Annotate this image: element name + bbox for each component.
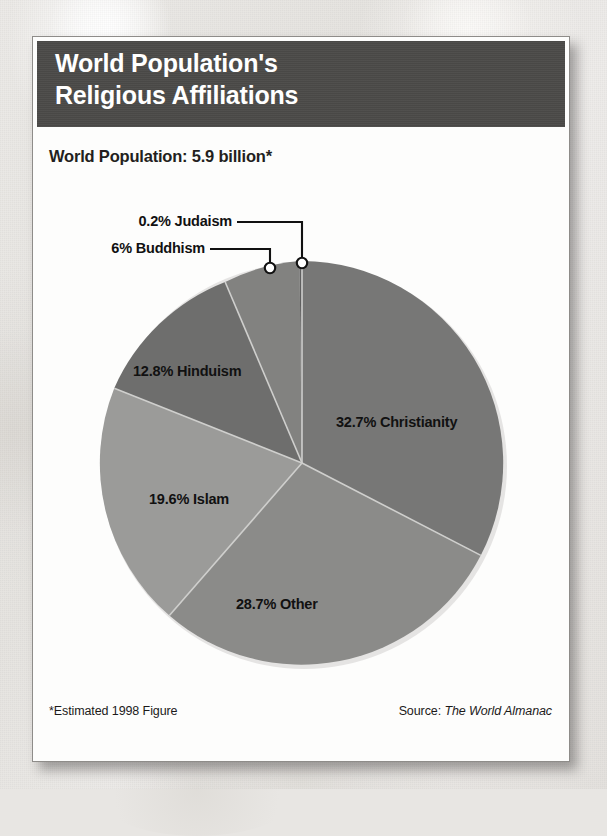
pie-label-buddhism: 6% Buddhism: [63, 240, 205, 256]
pie-label-judaism: 0.2% Judaism: [90, 213, 232, 229]
source-label: Source:: [399, 704, 441, 718]
infographic-card: World Population's Religious Affiliation…: [32, 36, 570, 762]
callout-marker-judaism: [297, 258, 307, 268]
callout-marker-buddhism: [265, 263, 275, 273]
footnote: *Estimated 1998 Figure: [49, 704, 177, 718]
pie-chart-svg: [32, 36, 570, 762]
source-credit: Source: The World Almanac: [399, 704, 552, 718]
callout-leader-judaism: [237, 222, 307, 268]
pie-label-other: 28.7% Other: [236, 596, 318, 612]
pie-label-hinduism: 12.8% Hinduism: [133, 363, 241, 379]
pie-label-islam: 19.6% Islam: [149, 491, 229, 507]
pie-label-christianity: 32.7% Christianity: [336, 414, 457, 430]
source-title: The World Almanac: [444, 704, 552, 718]
callout-leader-buddhism: [210, 249, 275, 273]
pie-chart: 0.2% Judaism 6% Buddhism 12.8% Hinduism …: [32, 36, 570, 762]
